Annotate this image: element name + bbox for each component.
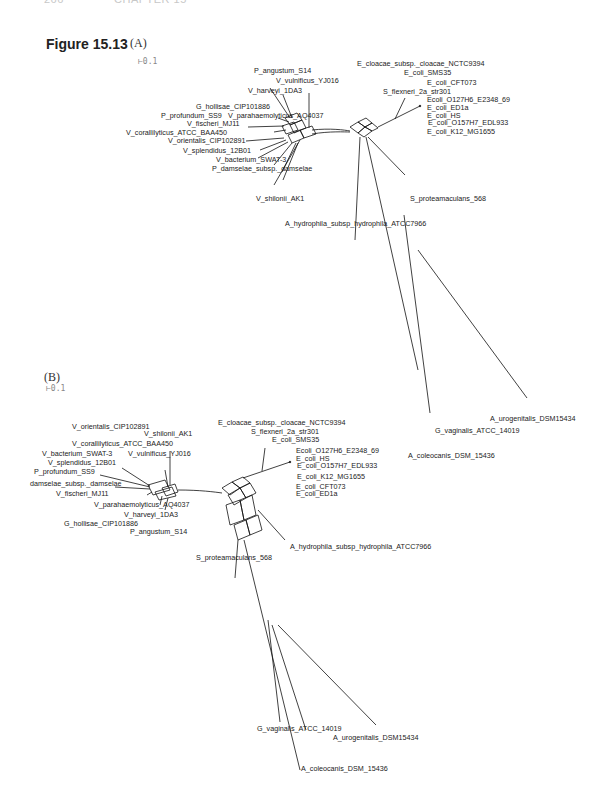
taxon-label: V_fischeri_MJ11	[56, 489, 109, 498]
taxon-label: A_coleocanis_DSM_15436	[408, 451, 495, 460]
taxon-label: A_coleocanis_DSM_15436	[301, 764, 388, 773]
phylogenetic-networks: P_angustum_S14 V_vulnificus_YJ016 V_harv…	[0, 0, 602, 801]
taxon-label: E_coli_K12_MG1655	[427, 127, 495, 136]
taxon-label: V_corallilyticus_ATCC_BAA450	[72, 439, 173, 448]
taxon-label: G_vaginalis_ATCC_14019	[435, 426, 520, 435]
taxon-label: V_orientalis_CIP102891	[72, 422, 150, 431]
taxon-label: V_harveyi_1DA3	[248, 86, 302, 95]
taxon-label: P_angustum_S14	[130, 527, 187, 536]
taxon-label: P_profundum_SS9	[34, 467, 95, 476]
taxon-label: A_hydrophila_subsp_hydrophila_ATCC7966	[290, 542, 431, 551]
taxon-label: V_splendidus_12B01	[48, 458, 116, 467]
taxon-label: A_urogenitalis_DSM15434	[333, 733, 419, 742]
taxon-label: V_parahaemolyticus_AQ4037	[94, 500, 190, 509]
taxon-label: G_hollisae_CIP101886	[196, 102, 270, 111]
taxon-label: V_parahaemolyticus_AQ4037	[228, 111, 324, 120]
taxon-label: E_coli_SMS35	[404, 68, 451, 77]
taxon-label: E_coli_O157H7_EDL933	[297, 461, 377, 470]
taxon-label: G_hollisae_CIP101886	[64, 519, 138, 528]
taxon-label: V_vulnificus_YJ016	[128, 449, 191, 458]
taxon-label: E_coli_O157H7_EDL933	[428, 118, 508, 127]
taxon-label: V_orientalis_CIP102891	[168, 136, 246, 145]
taxon-label: A_urogenitalis_DSM15434	[490, 414, 576, 423]
taxon-label: V_fischeri_MJ11	[187, 119, 240, 128]
panel-a-taxa: P_angustum_S14 V_vulnificus_YJ016 V_harv…	[126, 59, 576, 460]
taxon-label: E_coli_CFT073	[427, 78, 477, 87]
taxon-label: V_shilonii_AK1	[144, 429, 192, 438]
taxon-label: E_coli_K12_MG1655	[297, 472, 365, 481]
taxon-label: S_proteamaculans_568	[410, 194, 486, 203]
taxon-label: V_shilonii_AK1	[256, 194, 304, 203]
taxon-label: E_cloacae_subsp._cloacae_NCTC9394	[357, 59, 484, 68]
taxon-label: V_harveyi_1DA3	[124, 510, 178, 519]
taxon-label: E_coli_SMS35	[272, 435, 319, 444]
taxon-label: damselae_subsp._damselae	[30, 479, 122, 488]
taxon-label: V_vulnificus_YJ016	[276, 76, 339, 85]
taxon-label: E_coli_ED1a	[296, 489, 338, 498]
taxon-label: P_angustum_S14	[254, 66, 311, 75]
taxon-label: V_bacterium_SWAT-3	[42, 449, 112, 458]
taxon-label: V_bacterium_SWAT-3	[216, 155, 286, 164]
taxon-label: P_damselae_subsp._damselae	[212, 164, 312, 173]
taxon-label: S_proteamaculans_568	[196, 553, 272, 562]
taxon-label: A_hydrophila_subsp_hydrophila_ATCC7966	[285, 219, 426, 228]
taxon-label: G_vaginalis_ATCC_14019	[257, 724, 342, 733]
taxon-label: E_cloacae_subsp._cloacae_NCTC9394	[218, 418, 345, 427]
taxon-label: V_splendidus_12B01	[183, 146, 251, 155]
panel-a-network	[246, 88, 527, 413]
